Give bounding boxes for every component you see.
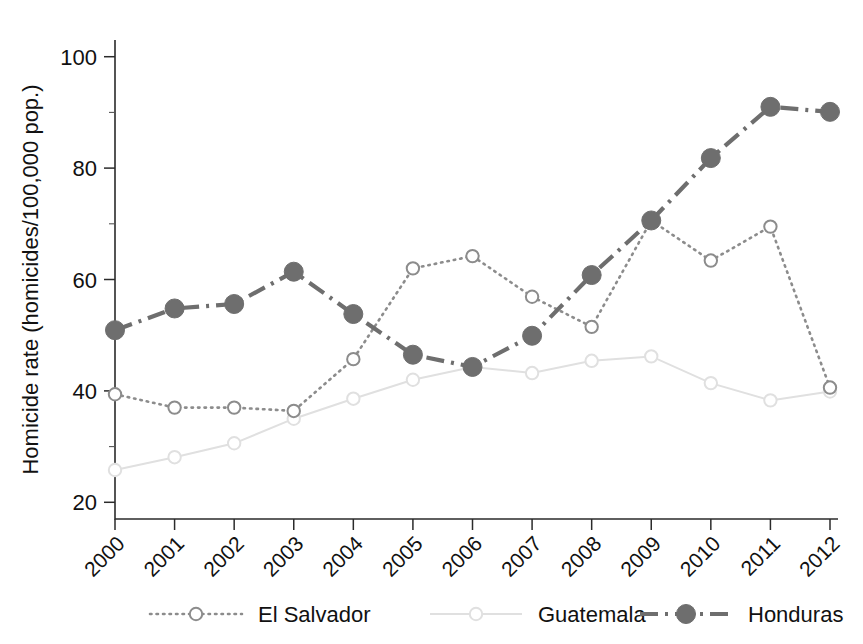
data-point[interactable]	[168, 451, 180, 463]
data-point[interactable]	[407, 262, 419, 274]
data-point[interactable]	[764, 394, 776, 406]
y-tick-label-20: 20	[73, 490, 97, 515]
legend-item-el-salvador[interactable]: El Salvador	[150, 602, 371, 627]
x-tick-label-2006: 2006	[437, 532, 486, 581]
x-tick-label-2010: 2010	[675, 532, 724, 581]
data-point[interactable]	[344, 305, 363, 324]
data-point[interactable]	[347, 353, 359, 365]
data-point[interactable]	[526, 291, 538, 303]
y-tick-label-100: 100	[60, 45, 97, 70]
data-point[interactable]	[463, 357, 482, 376]
y-tick-label-40: 40	[73, 379, 97, 404]
x-tick-label-2007: 2007	[497, 532, 546, 581]
axis-spines	[115, 40, 838, 519]
series-el-salvador	[109, 214, 836, 417]
legend-marker-el-salvador	[190, 608, 202, 620]
x-tick-label-2002: 2002	[199, 532, 248, 581]
data-point[interactable]	[347, 392, 359, 404]
data-point[interactable]	[523, 326, 542, 345]
data-point[interactable]	[288, 405, 300, 417]
x-tick-label-2005: 2005	[377, 532, 426, 581]
data-point[interactable]	[526, 367, 538, 379]
data-point[interactable]	[645, 350, 657, 362]
x-tick-label-2003: 2003	[258, 532, 307, 581]
legend-label-honduras: Honduras	[748, 602, 843, 627]
data-point[interactable]	[585, 321, 597, 333]
data-point[interactable]	[466, 250, 478, 262]
x-tick-label-2000: 2000	[80, 532, 129, 581]
data-point[interactable]	[284, 262, 303, 281]
data-point[interactable]	[407, 374, 419, 386]
y-tick-label-60: 60	[73, 268, 97, 293]
homicide-rate-chart-figure: 2040608010020002001200220032004200520062…	[0, 0, 863, 644]
data-point[interactable]	[821, 102, 840, 121]
legend-marker-guatemala	[470, 608, 482, 620]
legend-item-honduras[interactable]: Honduras	[640, 602, 843, 627]
x-tick-label-2004: 2004	[318, 531, 368, 581]
data-point[interactable]	[705, 254, 717, 266]
series-honduras	[106, 97, 840, 376]
data-point[interactable]	[403, 345, 422, 364]
data-point[interactable]	[109, 464, 121, 476]
x-tick-label-2001: 2001	[139, 532, 188, 581]
series-line-honduras	[115, 107, 830, 367]
data-point[interactable]	[168, 401, 180, 413]
data-point[interactable]	[642, 211, 661, 230]
data-point[interactable]	[585, 355, 597, 367]
data-point[interactable]	[225, 295, 244, 314]
data-point[interactable]	[705, 377, 717, 389]
chart-canvas: 2040608010020002001200220032004200520062…	[0, 0, 863, 644]
legend-label-guatemala: Guatemala	[538, 602, 646, 627]
data-point[interactable]	[701, 149, 720, 168]
x-tick-label-2012: 2012	[795, 532, 844, 581]
x-tick-label-2009: 2009	[616, 532, 665, 581]
y-axis-title: Homicide rate (homicides/100,000 pop.)	[18, 84, 43, 474]
data-point[interactable]	[109, 388, 121, 400]
y-tick-label-80: 80	[73, 156, 97, 181]
x-tick-label-2008: 2008	[556, 532, 605, 581]
data-point[interactable]	[228, 401, 240, 413]
data-point[interactable]	[764, 220, 776, 232]
legend-label-el-salvador: El Salvador	[258, 602, 371, 627]
x-tick-label-2011: 2011	[736, 532, 784, 580]
data-point[interactable]	[228, 437, 240, 449]
data-point[interactable]	[761, 97, 780, 116]
data-point[interactable]	[824, 381, 836, 393]
data-point[interactable]	[106, 321, 125, 340]
data-point[interactable]	[582, 266, 601, 285]
legend-item-guatemala[interactable]: Guatemala	[430, 602, 646, 627]
legend-marker-honduras	[677, 605, 696, 624]
data-point[interactable]	[165, 299, 184, 318]
